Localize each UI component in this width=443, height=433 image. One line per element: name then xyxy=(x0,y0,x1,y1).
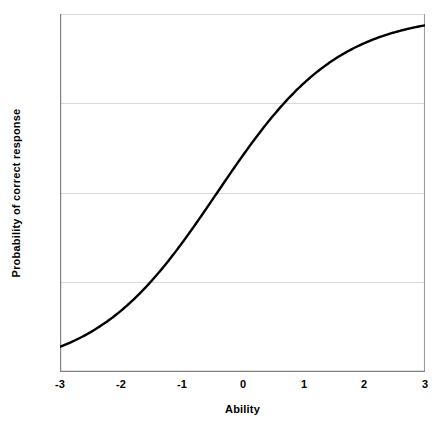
x-tick-label-minus1: -1 xyxy=(162,379,202,390)
gridlines xyxy=(60,15,425,283)
x-tick-label-minus2: -2 xyxy=(101,379,141,390)
x-tick-label-2: 2 xyxy=(344,379,384,390)
x-tick-label-minus3: -3 xyxy=(40,379,80,390)
x-tick-label-3: 3 xyxy=(405,379,443,390)
item-characteristic-curve-chart: 1 0.75 0.5 0.25 0 -3 -2 -1 0 1 2 3 Abili… xyxy=(0,0,443,433)
y-axis-title: Probability of correct response xyxy=(10,14,26,372)
plot-area xyxy=(60,14,425,372)
x-tick-label-1: 1 xyxy=(284,379,324,390)
probability-curve xyxy=(60,25,425,346)
plot-canvas xyxy=(60,14,425,372)
x-axis-title: Ability xyxy=(60,403,425,415)
x-tick-label-0: 0 xyxy=(223,379,263,390)
